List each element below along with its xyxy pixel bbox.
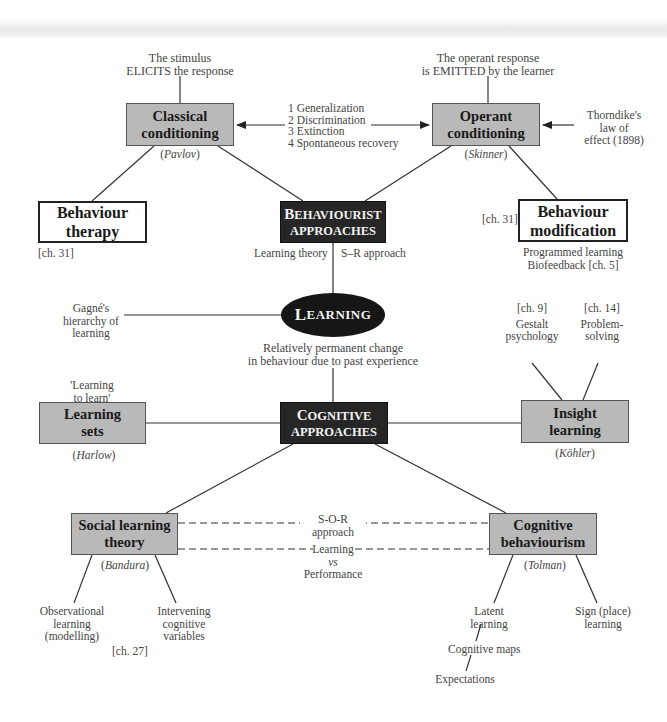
note-line: learning xyxy=(464,618,514,631)
social-learning-theory-node[interactable]: Social learning theory xyxy=(71,513,178,555)
operant-conditioning-node[interactable]: Operant conditioning xyxy=(432,103,540,146)
behaviour-modification-notes: Programmed learning Biofeedback [ch. 5] xyxy=(510,246,636,271)
initial-letter: C xyxy=(297,407,308,423)
latent-learning-branch: Latent learning xyxy=(464,605,514,630)
note-line: The operant response xyxy=(412,52,564,65)
node-title-line: Operant xyxy=(447,108,524,125)
initial-letter: L xyxy=(295,305,307,325)
note-line: Problem- xyxy=(572,318,632,331)
note-line: Biofeedback [ch. 5] xyxy=(510,259,636,272)
node-title-line: BEHAVIOURIST xyxy=(284,206,381,223)
note-line: Intervening xyxy=(152,605,216,618)
node-title-line: Behaviour xyxy=(57,203,128,222)
rest-letters: EARNING xyxy=(306,307,371,323)
note-line: Gagné's xyxy=(60,302,122,315)
social-person: (Bandura) xyxy=(95,559,155,572)
cog-behaviourism-person: (Tolman) xyxy=(515,559,575,572)
sign-learning-branch: Sign (place) learning xyxy=(572,605,634,630)
note-line: Learning xyxy=(300,543,366,556)
person-name: Harlow xyxy=(76,449,111,461)
note-line: Sign (place) xyxy=(572,605,634,618)
social-ref: [ch. 27] xyxy=(112,645,148,658)
learning-definition: Relatively permanent change in behaviour… xyxy=(233,342,433,367)
observational-learning-branch: Observational learning (modelling) xyxy=(36,605,108,643)
node-title-line: Learning xyxy=(64,406,121,423)
node-title-line: learning xyxy=(549,422,601,439)
person-name: Skinner xyxy=(468,148,503,160)
note-line: approach xyxy=(300,526,366,539)
note-line: in behaviour due to past experience xyxy=(233,355,433,368)
note-line: variables xyxy=(152,630,216,643)
sr-approach-label: S–R approach xyxy=(341,247,406,260)
note-line: learning xyxy=(60,327,122,340)
behaviour-therapy-node[interactable]: Behaviour therapy xyxy=(38,201,147,243)
learning-sets-note: 'Learning to learn' xyxy=(66,379,118,404)
note-line: law of xyxy=(574,122,654,135)
classical-conditioning-node[interactable]: Classical conditioning xyxy=(126,103,234,146)
process-item: 3 Extinction xyxy=(288,126,399,138)
learning-theory-label: Learning theory xyxy=(254,247,328,260)
note-line: 'Learning xyxy=(66,379,118,392)
cognitive-approaches-node[interactable]: COGNITIVE APPROACHES xyxy=(280,402,388,444)
person-name: Tolman xyxy=(528,559,562,571)
note-line: psychology xyxy=(502,330,562,343)
note-line: effect (1898) xyxy=(574,134,654,147)
note-line: Observational xyxy=(36,605,108,618)
note-line: Performance xyxy=(300,568,366,581)
process-item: 4 Spontaneous recovery xyxy=(288,138,399,150)
rest-letters: EHAVIOURIST xyxy=(294,208,381,222)
node-title-line: COGNITIVE xyxy=(291,407,377,424)
behaviourist-approaches-node[interactable]: BEHAVIOURIST APPROACHES xyxy=(280,201,386,243)
gestalt-branch: [ch. 9] Gestalt psychology xyxy=(502,302,562,343)
person-name: Bandura xyxy=(105,559,145,571)
process-item: 1 Generalization xyxy=(288,103,399,115)
node-title-line: Classical xyxy=(141,108,218,125)
note-line: Gestalt xyxy=(502,318,562,331)
node-title-line: Behaviour xyxy=(530,202,616,221)
person-name: Pavlov xyxy=(164,148,196,160)
operant-person: (Skinner) xyxy=(456,148,516,161)
behaviour-modification-node[interactable]: Behaviour modification xyxy=(518,199,628,242)
note-line: ELICITS the response xyxy=(122,65,238,78)
node-title-line: Cognitive xyxy=(501,517,586,534)
note-line: Programmed learning xyxy=(510,246,636,259)
node-title-line: Social learning xyxy=(78,517,170,534)
learning-sets-node[interactable]: Learning sets xyxy=(39,402,146,444)
node-title-line: Insight xyxy=(549,405,601,422)
behaviour-therapy-ref: [ch. 31] xyxy=(38,247,74,260)
node-title-line: theory xyxy=(78,534,170,551)
intervening-variables-branch: Intervening cognitive variables xyxy=(152,605,216,643)
node-title-line: modification xyxy=(530,221,616,240)
note-line: Latent xyxy=(464,605,514,618)
cognitive-maps-label: Cognitive maps xyxy=(448,643,518,656)
learning-sets-person: (Harlow) xyxy=(64,449,124,462)
gagne-hierarchy-note: Gagné's hierarchy of learning xyxy=(60,302,122,340)
operant-note: The operant response is EMITTED by the l… xyxy=(412,52,564,77)
insight-learning-node[interactable]: Insight learning xyxy=(521,400,629,443)
learning-central-node[interactable]: LEARNING xyxy=(281,293,385,337)
node-title-line: conditioning xyxy=(141,125,218,142)
node-title-line: behaviourism xyxy=(501,534,586,551)
insight-person: (Köhler) xyxy=(545,447,605,460)
note-line: cognitive xyxy=(152,618,216,631)
chapter-ref: [ch. 9] xyxy=(502,302,562,315)
thorndike-note: Thorndike's law of effect (1898) xyxy=(574,109,654,147)
problem-solving-branch: [ch. 14] Problem- solving xyxy=(572,302,632,343)
note-line: learning xyxy=(572,618,634,631)
node-title-line: sets xyxy=(64,423,121,440)
cognitive-behaviourism-node[interactable]: Cognitive behaviourism xyxy=(489,513,597,555)
learning-vs-performance-label: Learning vs Performance xyxy=(300,543,366,581)
classical-person: (Pavlov) xyxy=(150,148,210,161)
vs-label: vs xyxy=(328,556,338,568)
classical-note: The stimulus ELICITS the response xyxy=(122,52,238,77)
node-title-line: conditioning xyxy=(447,125,524,142)
behaviour-modification-ref: [ch. 31] xyxy=(482,213,518,226)
note-line: The stimulus xyxy=(122,52,238,65)
shared-processes-list: 1 Generalization 2 Discrimination 3 Exti… xyxy=(288,103,399,149)
node-title-line: APPROACHES xyxy=(291,424,377,440)
initial-letter: B xyxy=(284,206,294,222)
node-title-line: APPROACHES xyxy=(284,223,381,239)
node-title-line: therapy xyxy=(57,222,128,241)
note-line: vs xyxy=(300,556,366,569)
rest-letters: OGNITIVE xyxy=(307,409,371,423)
